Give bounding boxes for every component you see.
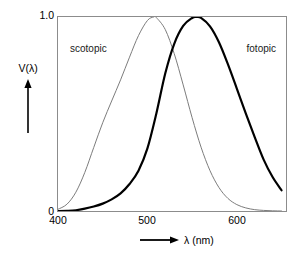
plot-area: scotopic fotopic (57, 16, 287, 212)
x-tick-label-600: 600 (220, 214, 254, 226)
x-axis-title: λ (nm) (184, 234, 214, 246)
y-axis-title: V(λ) (8, 62, 48, 74)
scotopic-label: scotopic (70, 43, 107, 54)
right-arrow-icon (140, 235, 180, 245)
y-axis-title-group: V(λ) (8, 62, 48, 133)
up-arrow-icon (22, 77, 34, 133)
luminosity-function-figure: scotopic fotopic 1.0 0 400 500 600 V(λ) … (0, 0, 301, 261)
fotopic-label: fotopic (247, 43, 276, 54)
x-tick-label-400: 400 (41, 214, 75, 226)
x-tick-label-500: 500 (130, 214, 164, 226)
x-axis-title-group: λ (nm) (140, 234, 214, 246)
y-tick-label-top: 1.0 (30, 9, 54, 21)
